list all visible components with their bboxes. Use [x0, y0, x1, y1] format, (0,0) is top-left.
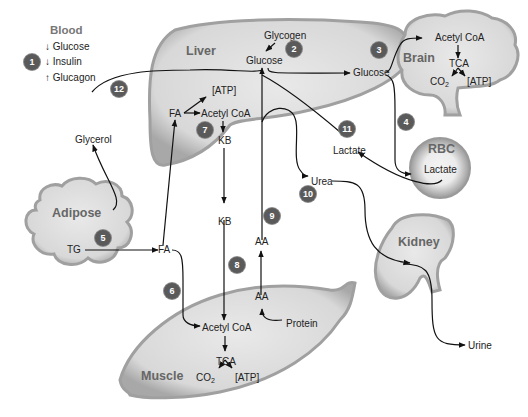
down-arrow-icon: ↓: [45, 56, 50, 67]
step-badge-6: 6: [164, 283, 180, 299]
organ-label-rbc: RBC: [428, 142, 455, 156]
glycerol: Glycerol: [75, 134, 112, 146]
organ-label-kidney: Kidney: [398, 235, 440, 249]
brain-co2: CO2: [430, 76, 449, 91]
step-badge-9: 9: [264, 208, 280, 224]
organ-label-liver: Liver: [186, 44, 216, 58]
step-badge-7: 7: [197, 122, 213, 138]
urine: Urine: [468, 340, 492, 352]
blood-aa: AA: [255, 236, 268, 248]
step-badge-12: 12: [111, 81, 127, 97]
step-badge-1: 1: [24, 54, 40, 70]
step-badge-11: 11: [339, 121, 355, 137]
legend-item-glucagon: ↑ Glucagon: [45, 72, 96, 84]
muscle-aa: AA: [255, 291, 268, 303]
blood-glucose: Glucose: [353, 67, 390, 79]
liver-fa: FA: [169, 108, 181, 120]
muscle-protein: Protein: [286, 318, 318, 330]
step-badge-8: 8: [229, 257, 245, 273]
down-arrow-icon: ↓: [45, 41, 50, 52]
muscle-atp: [ATP]: [235, 372, 259, 384]
step-badge-4: 4: [398, 114, 414, 130]
legend-item-insulin: ↓ Insulin: [45, 56, 82, 68]
liver-acetyl-coa: Acetyl CoA: [201, 108, 250, 120]
step-badge-5: 5: [95, 230, 111, 246]
liver-glycogen: Glycogen: [264, 30, 306, 42]
muscle-tca: TCA: [216, 356, 236, 368]
rbc-lactate: Lactate: [424, 164, 457, 176]
organ-label-brain: Brain: [403, 51, 435, 65]
step-badge-10: 10: [300, 186, 316, 202]
step-badge-3: 3: [371, 42, 387, 58]
organ-label-muscle: Muscle: [141, 369, 183, 383]
liver-atp: [ATP]: [212, 85, 236, 97]
blood-lactate: Lactate: [333, 145, 366, 157]
adipose-tg: TG: [67, 244, 81, 256]
legend-item-glucose: ↓ Glucose: [45, 41, 89, 53]
brain-tca: TCA: [449, 58, 469, 70]
liver-kb: KB: [218, 135, 231, 147]
legend-title: Blood: [50, 24, 83, 36]
urea: Urea: [311, 176, 333, 188]
up-arrow-icon: ↑: [45, 72, 50, 83]
muscle-co2: CO2: [196, 372, 215, 387]
liver-glucose: Glucose: [246, 55, 283, 67]
brain-acetyl-coa: Acetyl CoA: [435, 32, 484, 44]
brain-atp: [ATP]: [467, 76, 491, 88]
metabolism-diagram: Blood ↓ Glucose ↓ Insulin ↑ Glucagon Liv…: [0, 0, 528, 417]
muscle-acetyl-coa: Acetyl CoA: [202, 322, 251, 334]
step-badge-2: 2: [286, 41, 302, 57]
blood-kb: KB: [218, 216, 231, 228]
blood-fa: FA: [158, 244, 170, 256]
organ-label-adipose: Adipose: [52, 206, 101, 220]
